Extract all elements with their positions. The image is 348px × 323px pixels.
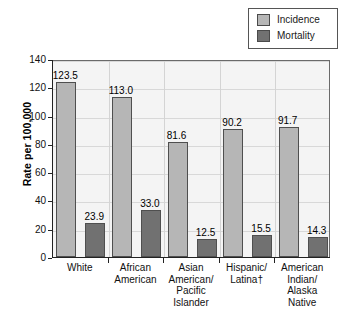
y-axis-tick (48, 258, 52, 259)
y-axis-tick-label: 60 (4, 168, 46, 178)
bar-incidence-2 (168, 142, 188, 257)
y-axis-tick (48, 173, 52, 174)
y-axis-tick-label: 20 (4, 225, 46, 235)
bar-mortality-4 (308, 237, 328, 257)
bar-mortality-2 (197, 239, 217, 257)
legend-item-mortality: Mortality (257, 30, 315, 42)
bar-value-label: 15.5 (241, 223, 281, 234)
bar-value-label: 23.9 (74, 211, 114, 222)
legend-item-incidence: Incidence (257, 14, 320, 26)
y-axis-tick-label: 100 (4, 112, 46, 122)
bar-value-label: 90.2 (212, 117, 252, 128)
bar-mortality-0 (85, 223, 105, 257)
bar-incidence-0 (56, 82, 76, 257)
bar-value-label: 91.7 (268, 115, 308, 126)
bar-value-label: 123.5 (45, 70, 85, 81)
y-axis-tick (48, 230, 52, 231)
bar-chart: Incidence Mortality Rate per 100,000 020… (0, 0, 348, 323)
bar-incidence-1 (112, 97, 132, 257)
bar-mortality-1 (141, 210, 161, 257)
gridline (53, 61, 329, 62)
y-axis-tick (48, 88, 52, 89)
y-axis-tick (48, 60, 52, 61)
y-axis-tick-label: 140 (4, 55, 46, 65)
bar-incidence-3 (223, 129, 243, 257)
bar-value-label: 81.6 (157, 130, 197, 141)
bar-incidence-4 (279, 127, 299, 257)
x-axis-category-label: American Indian/ Alaska Native (266, 262, 338, 308)
legend-swatch-mortality (257, 30, 270, 42)
legend-label-mortality: Mortality (277, 30, 315, 42)
bar-value-label: 14.3 (297, 225, 337, 236)
y-axis-tick-label: 120 (4, 83, 46, 93)
y-axis-tick-label: 40 (4, 196, 46, 206)
bar-value-label: 33.0 (130, 198, 170, 209)
x-axis-line (52, 257, 330, 258)
legend-swatch-incidence (257, 14, 270, 26)
gridline (53, 89, 329, 90)
bar-value-label: 113.0 (101, 85, 141, 96)
y-axis-tick (48, 145, 52, 146)
y-axis-line (52, 60, 53, 258)
chart-legend: Incidence Mortality (248, 8, 338, 49)
bar-mortality-3 (252, 235, 272, 257)
y-axis-tick-label: 0 (4, 253, 46, 263)
y-axis-tick (48, 201, 52, 202)
group-separator (164, 61, 165, 257)
legend-label-incidence: Incidence (277, 14, 320, 26)
y-axis-tick-label: 80 (4, 140, 46, 150)
bar-value-label: 12.5 (186, 227, 226, 238)
y-axis-tick (48, 117, 52, 118)
